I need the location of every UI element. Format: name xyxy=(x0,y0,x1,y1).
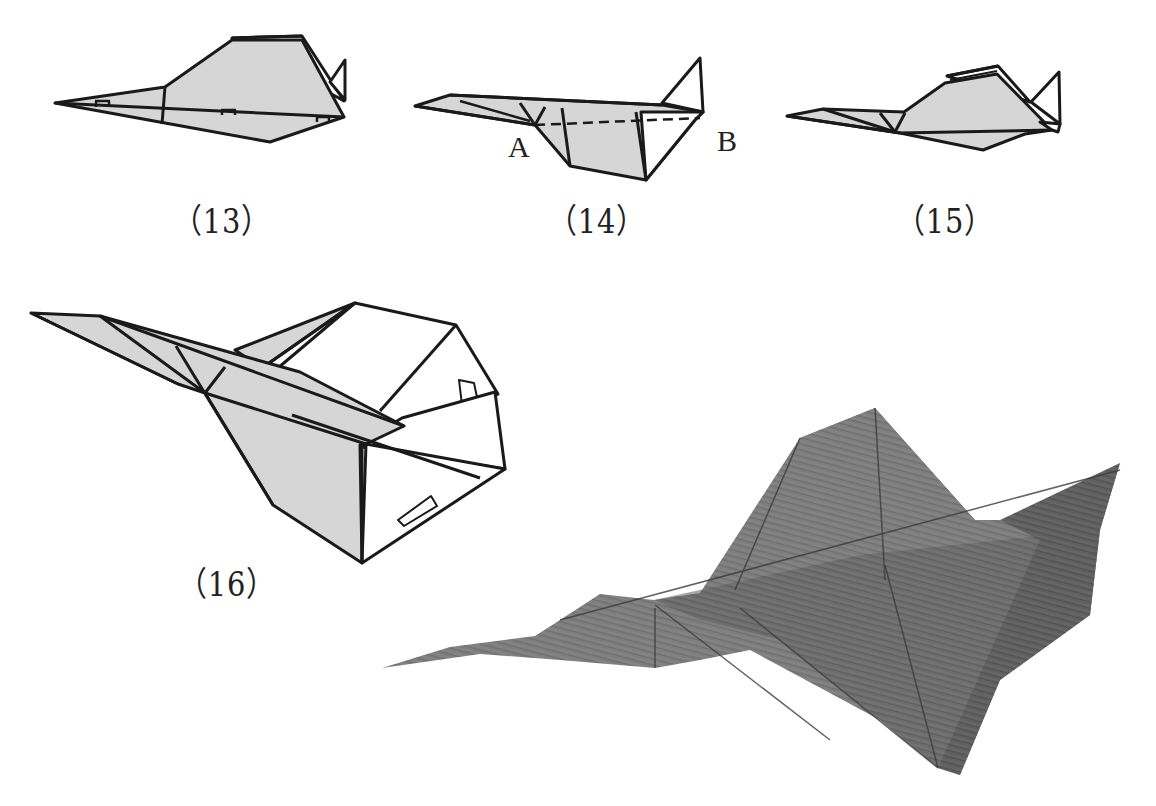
step-13-diagram xyxy=(55,36,345,142)
step-16-label: （16） xyxy=(178,557,276,606)
point-a-label: A xyxy=(508,130,530,164)
origami-instruction-sheet: A B （13） （14） （15） （16） xyxy=(0,0,1156,806)
step-14-label: （14） xyxy=(548,194,646,243)
step-14-diagram xyxy=(415,58,703,180)
point-b-label: B xyxy=(717,124,737,158)
diagram-canvas xyxy=(0,0,1156,806)
step-16-diagram xyxy=(31,303,505,563)
step-13-label: （13） xyxy=(173,194,271,243)
step-15-label: （15） xyxy=(896,194,994,243)
step-15-diagram xyxy=(787,66,1060,150)
